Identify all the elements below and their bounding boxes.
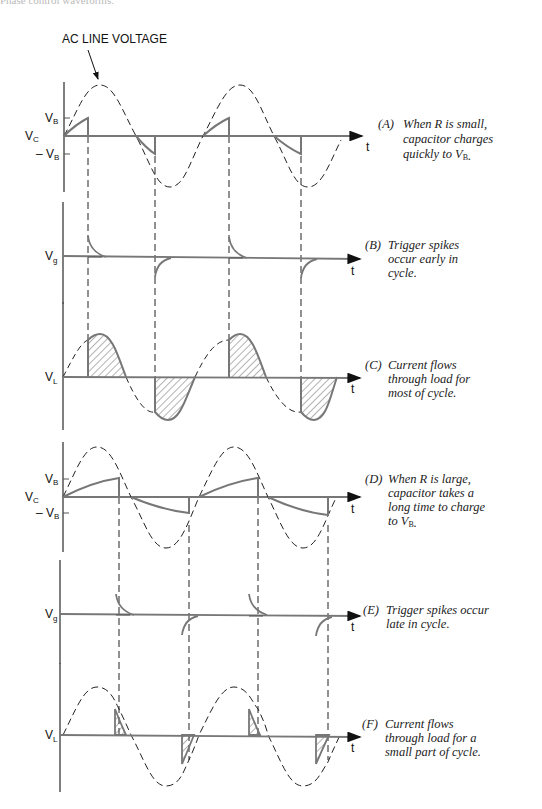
t-axis-label: t <box>351 620 355 634</box>
t-axis-label: t <box>351 382 355 396</box>
panel-e-time-axis <box>60 614 360 616</box>
panel-f-caption: (F)Current flows through load for a smal… <box>362 717 481 759</box>
t-axis-label: t <box>366 140 370 154</box>
panel-a-caption: (A)When R is small, capacitor charges qu… <box>378 117 496 163</box>
panel-f-load-current-small-part: VL t (F)Current flows through load for a… <box>45 663 481 792</box>
panel-d-capacitor-voltage-large-r: VB VC – VB t (D)When R is large, capacit… <box>25 442 488 552</box>
panel-a-capacitor-voltage-small-r: VB VC – VB t (A)When R is small, capacit… <box>25 82 496 192</box>
vb-label: VB <box>45 111 58 126</box>
panel-c-caption: (C)Current flows through load for most o… <box>365 358 473 400</box>
panel-b-caption: (B)Trigger spikes occur early in cycle. <box>365 238 462 280</box>
panel-e-trigger-spikes-late: Vg t (E)Trigger spikes occur late in cyc… <box>45 560 492 664</box>
annotation-arrow-icon <box>88 50 98 79</box>
panel-c-time-axis <box>63 377 360 378</box>
vc-label: VC <box>25 490 39 505</box>
panel-e-caption: (E)Trigger spikes occur late in cycle. <box>363 603 492 631</box>
t-axis-label: t <box>351 264 355 278</box>
panel-c-load-current-most-cycle: VL t (C)Current flows through load for m… <box>45 302 473 430</box>
scr-phase-control-diagram: AC LINE VOLTAGE VB VC – VB t (A)When R i… <box>0 0 542 809</box>
vl-label: VL <box>45 370 58 386</box>
neg-vb-label: – VB <box>36 147 59 162</box>
neg-vb-label: – VB <box>36 506 59 521</box>
ac-line-voltage-annotation: AC LINE VOLTAGE <box>62 32 167 79</box>
vc-label: VC <box>25 129 39 144</box>
ac-line-voltage-label: AC LINE VOLTAGE <box>62 32 167 46</box>
panel-d-caption: (D)When R is large, capacitor takes a lo… <box>365 472 488 530</box>
trigger-dashed-lines-bottom <box>119 497 328 760</box>
vl-label: VL <box>45 728 58 744</box>
panel-b-trigger-spikes-early: Vg t (B)Trigger spikes occur early in cy… <box>45 202 462 304</box>
t-axis-label: t <box>351 502 355 516</box>
vg-label: Vg <box>45 249 57 265</box>
panel-f-time-axis <box>60 735 360 737</box>
vb-label: VB <box>45 472 58 487</box>
vg-label: Vg <box>45 607 57 623</box>
t-axis-label: t <box>351 741 355 755</box>
